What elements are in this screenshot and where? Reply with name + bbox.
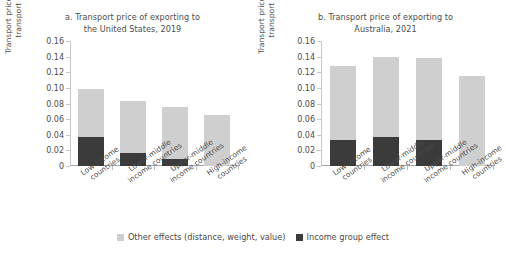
chart-b-bar-segment-other-effects (416, 58, 442, 140)
figure: a. Transport price of exporting to the U… (0, 0, 506, 264)
chart-a-y-tick-label: 0.08 (46, 99, 64, 108)
chart-b-y-tick-mark (317, 135, 321, 136)
chart-b-y-tick-mark (317, 41, 321, 42)
chart-a-y-tick-mark (66, 104, 70, 105)
chart-a-y-tick-label: 0.10 (46, 83, 64, 92)
chart-a-y-tick-label: 0.06 (46, 115, 64, 124)
chart-a-title: a. Transport price of exporting to the U… (18, 12, 247, 35)
chart-a-y-tick-mark (66, 88, 70, 89)
chart-a-y-tick-label: 0.16 (46, 37, 64, 46)
chart-b-y-tick-label: 0 (310, 162, 315, 171)
chart-a-y-tick-label: 0.14 (46, 52, 64, 61)
chart-b-bar-segment-other-effects (330, 66, 356, 140)
chart-b-y-tick-mark (317, 88, 321, 89)
chart-b-title-line2: Australia, 2021 (271, 24, 500, 36)
chart-a-y-tick-mark (66, 41, 70, 42)
chart-b-y-tick-mark (317, 57, 321, 58)
chart-b-bar (330, 66, 356, 166)
legend-swatch-other-effects (117, 234, 124, 241)
chart-b-y-axis-label-line1: Transport price per dollar of (257, 0, 267, 66)
chart-a-y-tick-label: 0 (59, 162, 64, 171)
chart-a-y-axis-label: Transport price per dollar of transport … (4, 0, 26, 66)
chart-b-y-tick-mark (317, 72, 321, 73)
chart-legend: Other effects (distance, weight, value) … (0, 232, 506, 242)
chart-a-y-tick-mark (66, 135, 70, 136)
chart-a-y-tick-mark (66, 166, 70, 167)
chart-b-title-line1: b. Transport price of exporting to (271, 12, 500, 24)
chart-b-y-axis-label: Transport price per dollar of transport … (257, 0, 279, 66)
chart-b-y-tick-label: 0.16 (297, 37, 315, 46)
chart-b-y-axis-label-line2: transport goods ($) (267, 0, 277, 66)
chart-b-title: b. Transport price of exporting to Austr… (271, 12, 500, 35)
chart-a-y-tick-mark (66, 119, 70, 120)
chart-a-y-tick-label: 0.02 (46, 146, 64, 155)
chart-a-y-tick-label: 0.12 (46, 68, 64, 77)
chart-a-y-tick-mark (66, 72, 70, 73)
chart-b-bar (373, 57, 399, 166)
chart-b-y-tick-label: 0.10 (297, 83, 315, 92)
chart-b-y-tick-label: 0.08 (297, 99, 315, 108)
chart-b-y-tick-label: 0.12 (297, 68, 315, 77)
chart-b-y-tick-mark (317, 119, 321, 120)
chart-b-y-tick-mark (317, 166, 321, 167)
chart-a-y-tick-mark (66, 57, 70, 58)
chart-a-y-axis-label-line1: Transport price per dollar of (4, 0, 14, 66)
chart-b-y-tick-label: 0.02 (297, 146, 315, 155)
panel-chart-a: a. Transport price of exporting to the U… (0, 0, 253, 222)
chart-b-y-tick-label: 0.06 (297, 115, 315, 124)
chart-a-bar-segment-other-effects (78, 89, 104, 137)
chart-b-y-axis-line (321, 41, 322, 166)
chart-b-y-tick-label: 0.04 (297, 130, 315, 139)
panel-chart-b: b. Transport price of exporting to Austr… (253, 0, 506, 222)
legend-label-other-effects: Other effects (distance, weight, value) (128, 232, 286, 242)
legend-label-income-group-effect: Income group effect (307, 232, 390, 242)
chart-b-y-tick-label: 0.14 (297, 52, 315, 61)
chart-b-x-categories: Low-incomecountriesLower-middleincome co… (321, 168, 501, 224)
legend-swatch-income-group-effect (296, 234, 303, 241)
chart-b-y-tick-mark (317, 150, 321, 151)
chart-a-y-tick-label: 0.04 (46, 130, 64, 139)
chart-a-x-categories: Low-incomecountriesLower-middleincome co… (70, 168, 246, 224)
chart-b-y-tick-mark (317, 104, 321, 105)
chart-b-bar-segment-other-effects (373, 57, 399, 137)
legend-item-income-group-effect: Income group effect (296, 232, 390, 242)
chart-a-title-line2: the United States, 2019 (18, 24, 247, 36)
chart-a-title-line1: a. Transport price of exporting to (18, 12, 247, 24)
chart-a-bar-segment-other-effects (120, 101, 146, 153)
legend-item-other-effects: Other effects (distance, weight, value) (117, 232, 286, 242)
chart-a-y-axis-label-line2: transport goods ($) (14, 0, 24, 66)
chart-a-y-tick-mark (66, 150, 70, 151)
chart-a-y-axis-line (70, 41, 71, 166)
